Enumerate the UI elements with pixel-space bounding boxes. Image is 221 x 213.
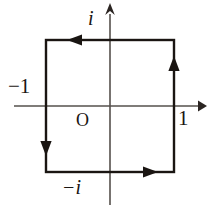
bottom-edge-direction-arrow-icon (143, 166, 158, 177)
top-edge-direction-arrow-icon (67, 34, 82, 45)
label-imaginary-positive: i (88, 8, 94, 28)
label-real-positive: 1 (178, 108, 189, 129)
imaginary-axis-arrow-icon (105, 3, 115, 15)
complex-plane-figure: i −i −1 1 O (0, 0, 221, 213)
label-imaginary-negative: −i (62, 177, 81, 197)
left-edge-direction-arrow-icon (40, 141, 51, 156)
label-origin: O (76, 111, 89, 129)
label-real-negative: −1 (8, 76, 30, 97)
real-axis-arrow-icon (198, 101, 207, 112)
right-edge-direction-arrow-icon (168, 56, 179, 71)
